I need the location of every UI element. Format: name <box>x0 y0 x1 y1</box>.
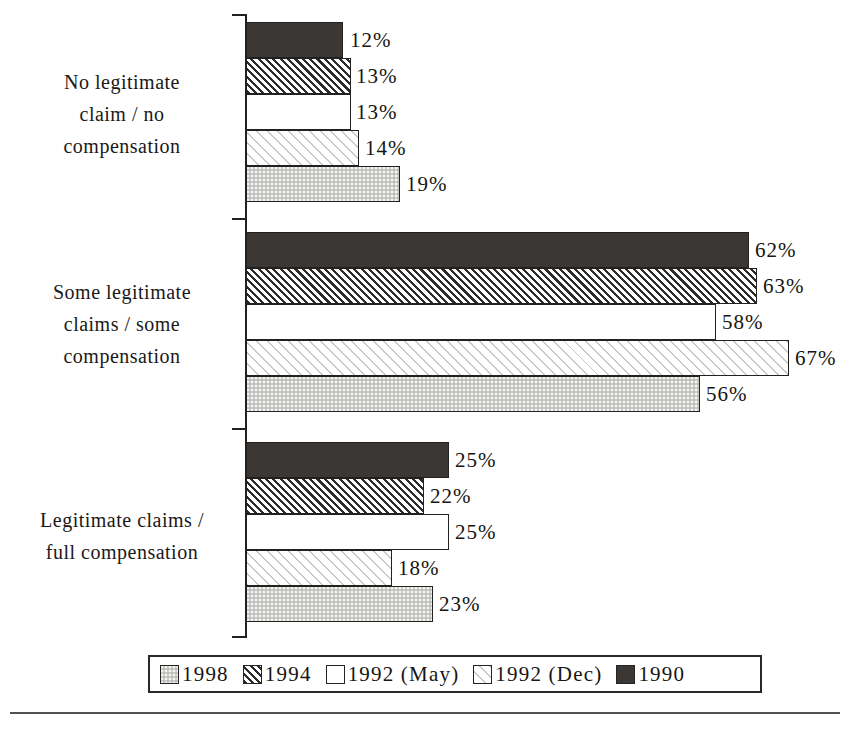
legend-label-1998: 1998 <box>182 662 229 687</box>
bar-1998-cat3 <box>246 586 433 622</box>
page-footer-rule <box>10 712 840 714</box>
bar-value-1992may-cat2: 58% <box>722 310 764 335</box>
bar-chart: No legitimate claim / no compensation 12… <box>0 0 855 648</box>
bar-1992may-cat2 <box>246 304 716 340</box>
chart-legend: 1998 1994 1992 (May) 1992 (Dec) 1990 <box>148 655 762 693</box>
bar-1990-cat1 <box>246 22 343 58</box>
category-label-1-line-1: No legitimate <box>8 66 236 98</box>
legend-swatch-1992-dec-icon <box>473 665 492 684</box>
bar-value-1990-cat2: 62% <box>755 238 797 263</box>
bar-value-1992may-cat1: 13% <box>356 100 398 125</box>
bar-value-1990-cat1: 12% <box>350 28 392 53</box>
bar-value-1994-cat2: 63% <box>763 274 805 299</box>
category-label-3-line-1: Legitimate claims / <box>8 504 236 536</box>
bar-1992dec-cat1 <box>246 130 359 166</box>
bar-value-1992dec-cat3: 18% <box>398 556 440 581</box>
bar-value-1998-cat2: 56% <box>706 382 748 407</box>
bar-value-1998-cat3: 23% <box>439 592 481 617</box>
legend-swatch-1998-icon <box>160 665 179 684</box>
category-label-2-line-2: claims / some <box>8 308 236 340</box>
bar-1998-cat1 <box>246 166 400 202</box>
axis-tick-group-1-2 <box>232 218 246 220</box>
category-label-1-line-3: compensation <box>8 130 236 162</box>
bar-group-legitimate-claims-full: Legitimate claims / full compensation 25… <box>0 442 855 626</box>
axis-tick-bottom <box>232 636 246 638</box>
bar-1998-cat2 <box>246 376 700 412</box>
bar-1990-cat2 <box>246 232 749 268</box>
legend-swatch-1992-may-icon <box>326 665 345 684</box>
bar-1994-cat2 <box>246 268 757 304</box>
bar-1992dec-cat3 <box>246 550 392 586</box>
axis-tick-top <box>232 14 246 16</box>
legend-label-1994: 1994 <box>265 662 312 687</box>
bar-1994-cat1 <box>246 58 351 94</box>
legend-item-1998: 1998 <box>160 662 229 687</box>
bar-value-1998-cat1: 19% <box>406 172 448 197</box>
category-label-2: Some legitimate claims / some compensati… <box>8 276 236 372</box>
legend-label-1990: 1990 <box>638 662 685 687</box>
legend-item-1992-may: 1992 (May) <box>326 662 460 687</box>
axis-tick-group-2-3 <box>232 428 246 430</box>
bar-group-some-legitimate-claims: Some legitimate claims / some compensati… <box>0 232 855 416</box>
legend-label-1992-dec: 1992 (Dec) <box>495 662 602 687</box>
bar-value-1994-cat3: 22% <box>430 484 472 509</box>
bar-1994-cat3 <box>246 478 424 514</box>
bar-1992dec-cat2 <box>246 340 789 376</box>
category-label-3: Legitimate claims / full compensation <box>8 504 236 568</box>
bar-1990-cat3 <box>246 442 449 478</box>
bar-1992may-cat1 <box>246 94 351 130</box>
legend-item-1994: 1994 <box>243 662 312 687</box>
bar-group-no-legitimate-claim: No legitimate claim / no compensation 12… <box>0 22 855 206</box>
legend-item-1992-dec: 1992 (Dec) <box>473 662 602 687</box>
bar-1992may-cat3 <box>246 514 449 550</box>
bar-value-1992dec-cat2: 67% <box>795 346 837 371</box>
category-label-1: No legitimate claim / no compensation <box>8 66 236 162</box>
bar-value-1992dec-cat1: 14% <box>365 136 407 161</box>
category-label-2-line-1: Some legitimate <box>8 276 236 308</box>
legend-swatch-1990-icon <box>616 665 635 684</box>
legend-item-1990: 1990 <box>616 662 685 687</box>
legend-label-1992-may: 1992 (May) <box>348 662 460 687</box>
bar-value-1992may-cat3: 25% <box>455 520 497 545</box>
category-label-2-line-3: compensation <box>8 340 236 372</box>
bar-value-1994-cat1: 13% <box>356 64 398 89</box>
category-label-3-line-2: full compensation <box>8 536 236 568</box>
bar-value-1990-cat3: 25% <box>455 448 497 473</box>
legend-swatch-1994-icon <box>243 665 262 684</box>
category-label-1-line-2: claim / no <box>8 98 236 130</box>
